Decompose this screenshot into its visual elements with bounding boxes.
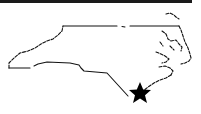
state-border-south xyxy=(9,62,128,96)
state-border-outer-banks xyxy=(179,26,191,64)
state-border-north xyxy=(63,26,179,27)
north-carolina-map xyxy=(0,0,201,114)
coastline-sounds xyxy=(156,13,182,75)
state-border-west xyxy=(9,26,63,68)
star-marker-icon xyxy=(129,82,151,103)
state-border-southeast-coast xyxy=(143,75,171,91)
